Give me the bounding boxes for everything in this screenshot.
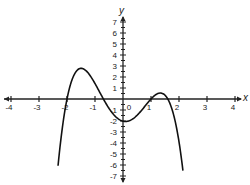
axes [4,16,242,183]
y-axis-arrow-up [121,16,126,21]
y-axis-arrow-down [121,178,126,183]
y-tick-label: -3 [110,128,118,137]
x-tick-label: 3 [203,103,208,112]
x-axis-arrow-left [4,97,9,102]
x-axis-arrow-right [237,97,242,102]
y-tick-label: -5 [110,150,118,159]
x-tick-label: -3 [33,103,41,112]
y-tick-label: 5 [113,40,118,49]
x-axis-label: x [242,92,249,103]
x-tick-label: 2 [175,103,180,112]
x-tick-label: 1 [147,103,152,112]
y-tick-label: 7 [113,18,118,27]
y-tick-label: 4 [113,51,118,60]
y-tick-label: -7 [110,172,118,181]
x-tick-label: 4 [231,103,236,112]
x-tick-label: 0 [127,103,132,112]
y-tick-label: 2 [113,73,118,82]
y-tick-label: -4 [110,139,118,148]
y-tick-label: -6 [110,161,118,170]
function-graph: -4-3-2-1012347654321-1-2-3-4-5-6-7 x y [0,0,250,185]
y-axis-label: y [118,5,125,16]
y-tick-label: 1 [113,84,118,93]
y-tick-label: 6 [113,29,118,38]
polynomial-curve [58,68,183,170]
y-tick-label: 3 [113,62,118,71]
x-tick-label: -1 [89,103,97,112]
x-tick-label: -4 [5,103,13,112]
